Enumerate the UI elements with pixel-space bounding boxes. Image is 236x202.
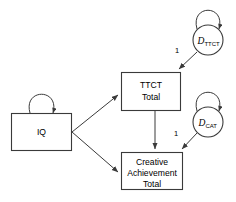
node-ttct-label-line2: Total (142, 92, 160, 102)
edge-label-disturbance-cat-weight: 1 (174, 129, 178, 138)
edge-disturbance-ttct-to-ttct (179, 52, 197, 69)
edge-disturbance-cat-to-creative-achievement (182, 133, 197, 149)
path-diagram-canvas: IQ TTCT Total Creative Achievement Total… (0, 0, 236, 202)
node-disturbance-ttct-label-sub: TTCT (204, 41, 220, 47)
path-diagram-svg: IQ TTCT Total Creative Achievement Total… (0, 0, 236, 202)
node-disturbance-cat-label-main: D (198, 118, 206, 128)
edge-iq-to-creative-achievement (72, 132, 118, 172)
edge-label-disturbance-ttct-weight: 1 (175, 46, 179, 55)
edge-iq-to-ttct (72, 95, 118, 132)
iq-variance-loop (29, 94, 54, 113)
node-disturbance-cat-label-sub: CAT (205, 123, 217, 129)
node-creative-achievement-label-line2: Achievement (127, 168, 177, 178)
node-iq-label: IQ (37, 127, 46, 137)
node-creative-achievement-label-line3: Total (143, 179, 161, 189)
node-creative-achievement-label-line1: Creative (136, 157, 168, 167)
node-disturbance-ttct-label-main: D (197, 36, 205, 46)
node-ttct-label-line1: TTCT (140, 80, 163, 90)
